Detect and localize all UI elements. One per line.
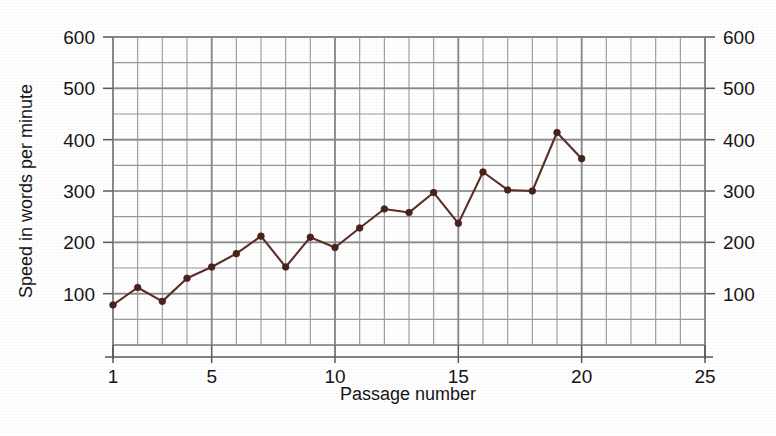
data-point xyxy=(233,250,240,257)
data-point xyxy=(480,169,487,176)
y-tick-label-right: 100 xyxy=(723,284,755,305)
y-tick-label-left: 100 xyxy=(63,284,95,305)
data-point xyxy=(578,155,585,162)
data-point xyxy=(381,206,388,213)
line-chart: 1510152025 100200300400500600 1002003004… xyxy=(0,0,776,436)
data-point xyxy=(430,189,437,196)
data-point xyxy=(307,234,314,241)
data-point xyxy=(406,209,413,216)
data-point xyxy=(184,275,191,282)
x-tick-label: 25 xyxy=(694,366,715,387)
data-point xyxy=(554,129,561,136)
y-tick-label-left: 500 xyxy=(63,78,95,99)
data-point xyxy=(134,284,141,291)
y-tick-label-right: 600 xyxy=(723,27,755,48)
data-point xyxy=(282,264,289,271)
y-tick-label-left: 300 xyxy=(63,181,95,202)
data-point xyxy=(332,244,339,251)
y-tick-label-left: 400 xyxy=(63,130,95,151)
chart-container: 1510152025 100200300400500600 1002003004… xyxy=(0,0,776,436)
y-tick-label-right: 500 xyxy=(723,78,755,99)
x-tick-label: 5 xyxy=(206,366,217,387)
x-tick-label: 20 xyxy=(571,366,592,387)
data-point xyxy=(455,220,462,227)
x-tick-label: 1 xyxy=(108,366,119,387)
y-tick-label-right: 300 xyxy=(723,181,755,202)
data-point xyxy=(208,264,215,271)
y-tick-label-right: 200 xyxy=(723,232,755,253)
data-point xyxy=(110,302,117,309)
data-point xyxy=(504,187,511,194)
data-point xyxy=(258,233,265,240)
y-tick-label-right: 400 xyxy=(723,130,755,151)
y-tick-label-left: 200 xyxy=(63,232,95,253)
data-point xyxy=(529,188,536,195)
data-point xyxy=(159,298,166,305)
y-tick-label-left: 600 xyxy=(63,27,95,48)
y-axis-title: Speed in words per minute xyxy=(16,84,36,298)
x-axis-title: Passage number xyxy=(340,384,476,404)
data-point xyxy=(356,225,363,232)
